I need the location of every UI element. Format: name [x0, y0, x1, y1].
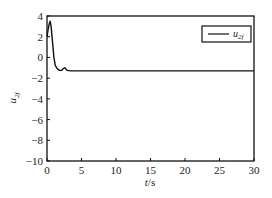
- y-tick-label: −2: [31, 72, 43, 84]
- x-tick-label: 30: [249, 164, 261, 176]
- y-tick-label: −8: [31, 134, 43, 146]
- legend: u2f: [202, 26, 251, 42]
- x-tick-label: 0: [44, 164, 50, 176]
- line-chart: 420−2−4−6−8−10 051015202530 u2f t/s u2f: [0, 0, 272, 198]
- y-tick-label: −6: [31, 114, 43, 126]
- y-tick-label: 4: [38, 10, 44, 22]
- x-tick-label: 20: [180, 164, 192, 176]
- y-tick-label: 0: [38, 51, 44, 63]
- x-tick-label: 25: [214, 164, 226, 176]
- x-tick-label: 15: [145, 164, 157, 176]
- x-axis-label: t/s: [145, 176, 155, 188]
- y-tick-label: −10: [26, 155, 44, 167]
- y-tick-label: −4: [31, 93, 43, 105]
- x-tick-label: 10: [111, 164, 123, 176]
- svg-text:u2f: u2f: [6, 91, 21, 103]
- y-axis-label: u2f: [6, 91, 21, 103]
- y-tick-label: 2: [38, 31, 44, 43]
- x-tick-label: 5: [79, 164, 85, 176]
- svg-text:t/s: t/s: [145, 176, 155, 188]
